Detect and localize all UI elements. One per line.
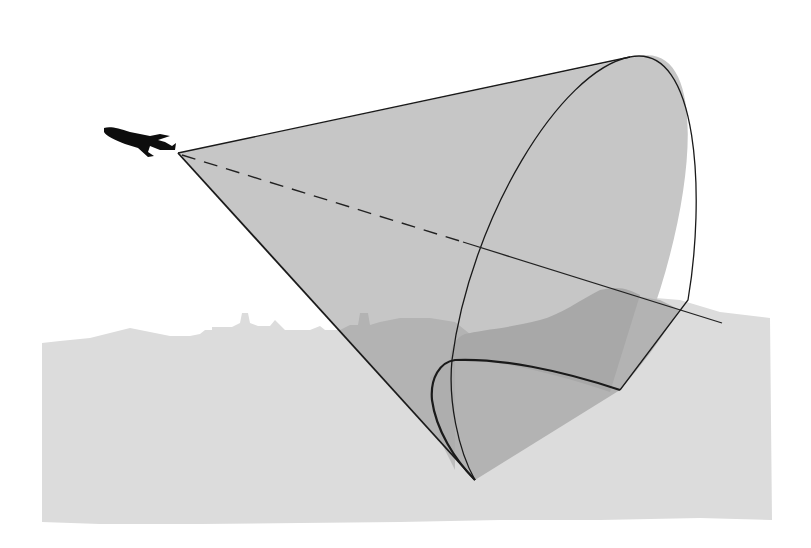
diagram-canvas <box>0 0 811 548</box>
airplane-icon <box>104 127 176 157</box>
cone-diagram <box>0 0 811 548</box>
